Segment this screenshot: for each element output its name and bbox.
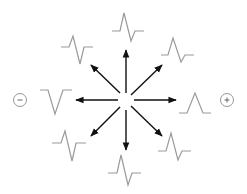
waveform-right-positive — [179, 93, 211, 113]
waveform-bottom-left — [52, 131, 86, 161]
lead-vector-diagram — [0, 0, 247, 194]
arrow-down-left — [91, 107, 120, 136]
positive-pole — [221, 94, 234, 107]
waveform-bottom — [108, 155, 141, 185]
negative-pole — [14, 94, 27, 107]
waveform-top — [112, 13, 144, 41]
waveform-top-left — [61, 36, 93, 64]
arrow-up-left — [91, 65, 120, 93]
waveform-bottom-right — [158, 133, 191, 160]
waveforms — [40, 13, 211, 185]
diagram-canvas — [0, 0, 247, 194]
arrow-down-right — [131, 106, 162, 136]
arrow-up-right — [131, 65, 162, 95]
arrows — [76, 50, 176, 150]
waveform-top-right — [161, 38, 194, 62]
waveform-left-negative — [40, 90, 72, 114]
